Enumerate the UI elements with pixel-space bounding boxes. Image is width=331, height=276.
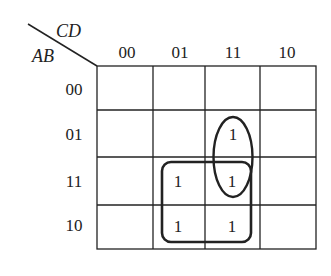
row-label-10: 10	[66, 216, 83, 235]
row-label-11: 11	[66, 172, 82, 191]
col-variables-label: CD	[56, 21, 81, 41]
row-label-00: 00	[66, 80, 83, 99]
cell-ab11-cd01: 1	[174, 172, 183, 191]
grid	[97, 66, 316, 249]
karnaugh-map: CD AB 00 01 11 10 00 01 11 10 1 1 1 1 1	[0, 0, 331, 276]
cell-ab10-cd01: 1	[174, 217, 183, 236]
row-variables-label: AB	[31, 46, 54, 66]
cell-ab11-cd11: 1	[228, 172, 237, 191]
row-label-01: 01	[66, 125, 83, 144]
col-label-11: 11	[225, 43, 241, 62]
col-label-00: 00	[119, 43, 136, 62]
col-label-01: 01	[172, 43, 189, 62]
cell-ab10-cd11: 1	[228, 217, 237, 236]
cell-ab01-cd11: 1	[229, 125, 238, 144]
col-label-10: 10	[279, 43, 296, 62]
